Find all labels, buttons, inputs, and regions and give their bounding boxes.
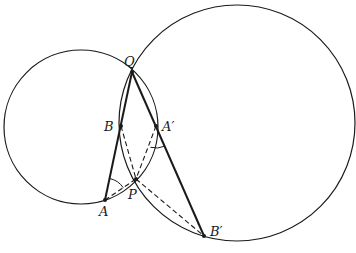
point-Q — [130, 70, 134, 74]
point-A — [103, 198, 107, 202]
point-B-prime — [202, 234, 206, 238]
label-Q: Q — [124, 54, 135, 69]
label-A: A — [98, 204, 108, 219]
left-circle — [4, 50, 158, 204]
label-A-prime: A′ — [161, 119, 174, 134]
label-B: B — [103, 119, 114, 134]
label-P: P — [127, 187, 137, 202]
line-Q-B-prime — [132, 72, 204, 236]
diagram-canvas: Q B A′ P A B′ — [0, 0, 356, 253]
geometry-diagram: Q B A′ P A B′ — [0, 0, 356, 253]
angle-mark-A — [110, 179, 124, 188]
label-B-prime: B′ — [209, 224, 223, 239]
point-A-prime — [154, 124, 158, 128]
point-B — [119, 124, 123, 128]
dashed-P-B-prime — [136, 179, 204, 236]
line-A-Q — [105, 72, 132, 200]
angle-mark-A-prime — [150, 146, 165, 148]
dashed-A-prime-P — [136, 126, 156, 179]
point-P — [134, 177, 138, 181]
